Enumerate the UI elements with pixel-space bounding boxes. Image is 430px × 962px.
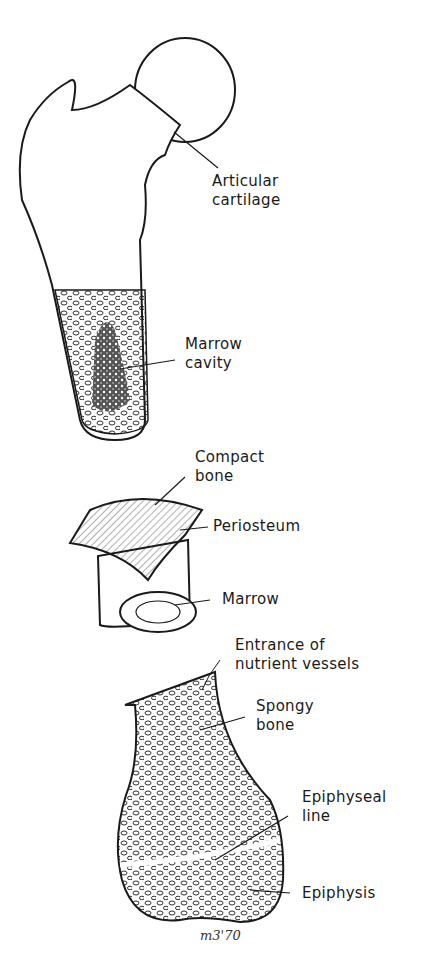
proximal-femur <box>20 38 235 440</box>
label-nutrient-vessels: Entrance of nutrient vessels <box>235 636 359 674</box>
label-periosteum: Periosteum <box>213 517 300 536</box>
shaft-segment <box>70 477 210 632</box>
label-epiphysis: Epiphysis <box>302 884 376 903</box>
label-compact-bone: Compact bone <box>195 448 264 486</box>
artist-signature: m3'70 <box>200 928 241 943</box>
label-epiphyseal-line: Epiphyseal line <box>302 788 386 826</box>
label-articular-cartilage: Articular cartilage <box>212 172 280 210</box>
label-marrow-cavity: Marrow cavity <box>185 335 242 373</box>
label-marrow: Marrow <box>222 590 279 609</box>
label-spongy-bone: Spongy bone <box>256 697 314 735</box>
